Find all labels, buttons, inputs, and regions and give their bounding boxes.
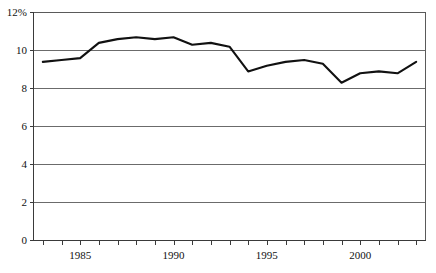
y-tick-label-10: 10 [16, 44, 28, 56]
data-series-line [43, 37, 416, 83]
y-tick-label-8: 8 [22, 82, 28, 94]
y-tick-marks [30, 13, 34, 241]
x-tick-label-1990: 1990 [163, 249, 186, 261]
y-tick-label-12: 12% [7, 6, 27, 18]
y-tick-label-0: 0 [22, 234, 28, 246]
x-tick-marks [44, 241, 417, 245]
line-chart: 12% 10 8 6 4 2 0 1985199019952000 [0, 0, 436, 273]
x-tick-label-1985: 1985 [69, 249, 92, 261]
chart-container: 12% 10 8 6 4 2 0 1985199019952000 [0, 0, 436, 273]
x-tick-labels: 1985199019952000 [69, 249, 372, 261]
y-tick-label-2: 2 [22, 196, 28, 208]
y-tick-label-4: 4 [22, 158, 28, 170]
y-tick-label-6: 6 [22, 120, 28, 132]
y-tick-labels: 12% 10 8 6 4 2 0 [7, 6, 28, 246]
x-tick-label-2000: 2000 [349, 249, 372, 261]
x-tick-label-1995: 1995 [256, 249, 279, 261]
